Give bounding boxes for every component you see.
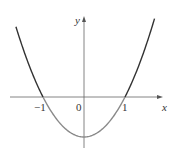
curve-left-branch [16, 27, 43, 97]
origin-label: 0 [76, 101, 82, 113]
chart: y x −1 0 1 [0, 0, 174, 158]
tick-label-1: 1 [122, 101, 128, 113]
x-axis-label: x [161, 101, 167, 113]
y-axis-arrow-icon [82, 16, 86, 22]
x-axis-arrow-icon [157, 95, 163, 99]
curve-right-branch [125, 19, 155, 97]
y-axis-label: y [74, 14, 80, 26]
tick-label-neg1: −1 [34, 101, 46, 113]
